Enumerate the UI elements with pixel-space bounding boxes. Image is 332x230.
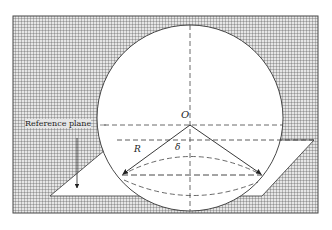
depth-label-text: δ xyxy=(175,142,180,152)
center-label: O xyxy=(181,109,189,120)
sphere-diagram xyxy=(0,0,332,230)
reference-plane-label: Reference plane xyxy=(25,119,91,128)
center-label-text: O xyxy=(181,109,189,120)
depth-label: δ xyxy=(175,142,180,152)
radius-label-text: R xyxy=(134,144,141,154)
reference-plane-label-text: Reference plane xyxy=(25,119,91,128)
radius-label: R xyxy=(134,144,141,154)
